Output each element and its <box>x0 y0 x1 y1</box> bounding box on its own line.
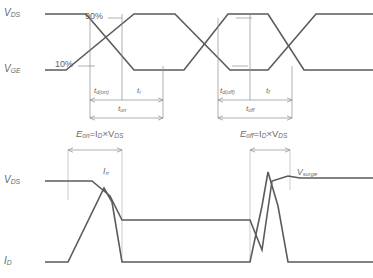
axis-label-vge-top: VGE <box>4 63 21 74</box>
top-panel-annotations <box>78 14 292 120</box>
threshold-label-90: 90% <box>85 11 103 21</box>
waveform-canvas <box>0 0 373 278</box>
axis-label-id-bottom: ID <box>4 255 12 266</box>
timing-label-toff: toff <box>246 104 254 113</box>
top-panel-waveforms <box>45 14 373 70</box>
vds-trace-top <box>45 14 373 70</box>
axis-label-vds-top: VDS <box>4 7 20 18</box>
timing-label-tr: tr <box>137 86 141 95</box>
energy-equation-off: Eoff=ID×VDS <box>240 128 287 139</box>
switching-waveform-figure: VDS VGE 90% 10% td(on) tr ton td(off) tf… <box>0 0 373 278</box>
id-trace-bottom <box>45 172 373 262</box>
axis-label-vds-bottom: VDS <box>4 174 20 185</box>
energy-brackets <box>68 148 290 262</box>
timing-label-td-on: td(on) <box>94 86 109 95</box>
timing-label-td-off: td(off) <box>220 86 235 95</box>
energy-equation-on: Eon=ID×VDS <box>76 128 123 139</box>
threshold-label-10: 10% <box>55 59 73 69</box>
vds-trace-bottom <box>45 176 373 250</box>
bottom-panel-waveforms <box>45 172 373 262</box>
annotation-label-irr: Irr <box>103 166 109 176</box>
timing-label-tf: tf <box>266 86 270 95</box>
timing-label-ton: ton <box>118 104 126 113</box>
annotation-label-vsurge: Vsurge <box>297 167 317 177</box>
